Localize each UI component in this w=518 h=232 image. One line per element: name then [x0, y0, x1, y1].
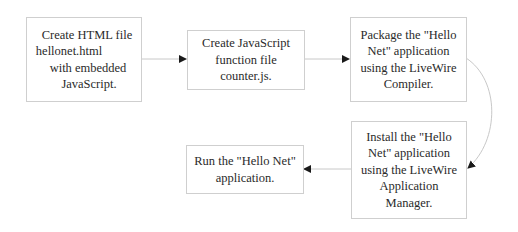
step2-create-js-box: Create JavaScript function file counter.… [187, 30, 305, 90]
step1-create-html-box: Create HTML file hellonet.html with embe… [26, 17, 142, 102]
step4-line1: Install the "Hello [366, 129, 452, 146]
step4-line2: Net" application [368, 145, 450, 162]
step2-line3: counter.js. [220, 68, 271, 85]
step1-line4: JavaScript. [61, 76, 116, 93]
step1-line2: hellonet.html [36, 43, 102, 60]
step4-install-box: Install the "Hello Net" application usin… [351, 121, 467, 219]
step4-line4: Application [379, 178, 438, 195]
step3-line1: Package the "Hello [360, 27, 456, 44]
step3-line2: Net" application [368, 43, 450, 60]
step2-line2: function file [215, 52, 276, 69]
step2-line1: Create JavaScript [202, 35, 290, 52]
step5-run-box: Run the "Hello Net" application. [186, 145, 304, 194]
step1-line3: with embedded [50, 60, 127, 77]
step3-line3: using the LiveWire [361, 60, 457, 77]
step5-line2: application. [216, 170, 275, 187]
step3-package-box: Package the "Hello Net" application usin… [350, 17, 467, 102]
step4-line3: using the LiveWire [361, 162, 457, 179]
step4-line5: Manager. [386, 195, 433, 212]
arrow-step3-to-step4 [466, 58, 492, 168]
step5-line1: Run the "Hello Net" [194, 153, 296, 170]
step1-line1: Create HTML file [42, 27, 132, 44]
step3-line4: Compiler. [384, 76, 434, 93]
